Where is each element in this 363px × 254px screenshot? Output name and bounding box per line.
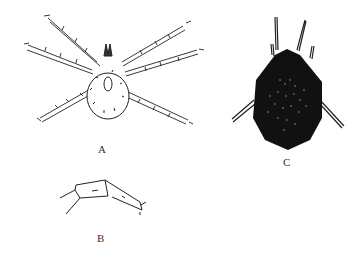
panel-label-a: A (98, 143, 106, 155)
figure-canvas (0, 0, 363, 254)
mite-a-drawing (24, 15, 204, 124)
mite-c-drawing (232, 17, 344, 150)
panel-label-b: B (97, 232, 104, 244)
leg-b-drawing (60, 180, 146, 215)
panel-label-c: C (283, 156, 290, 168)
